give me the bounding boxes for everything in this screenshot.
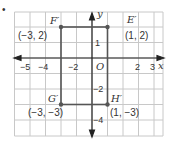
- y-axis-up-arrow-icon: [90, 13, 95, 20]
- x-tick-minus2: −2: [68, 62, 78, 72]
- x-tick-minus4: −4: [38, 62, 48, 72]
- label-E: E′: [126, 14, 137, 25]
- coord-E: (1, 2): [125, 30, 148, 41]
- label-F: F′: [49, 15, 60, 26]
- x-axis-left-arrow-icon: [14, 56, 21, 61]
- x-axis-label: x: [158, 60, 164, 71]
- coord-G: (−3, −3): [28, 107, 63, 118]
- coordinate-plane: • y x O −5 −4 −2 2 3 1 −2 −4 F′ (−3, 2) …: [0, 0, 175, 147]
- vertex-F: [59, 25, 63, 29]
- coord-H: (1, −3): [110, 107, 139, 118]
- vertex-E: [105, 25, 109, 29]
- x-tick-minus5: −5: [20, 62, 30, 72]
- x-axis: [14, 56, 164, 61]
- origin-label: O: [96, 61, 104, 72]
- y-tick-minus2: −2: [93, 84, 103, 94]
- x-tick-2: 2: [135, 62, 140, 72]
- coord-F: (−3, 2): [18, 30, 47, 41]
- label-G: G′: [48, 93, 59, 104]
- y-tick-minus4: −4: [93, 115, 103, 125]
- y-tick-1: 1: [95, 38, 100, 48]
- label-H: H′: [110, 93, 123, 104]
- y-axis-label: y: [96, 8, 103, 19]
- bullet: •: [2, 4, 6, 15]
- x-tick-3: 3: [150, 62, 155, 72]
